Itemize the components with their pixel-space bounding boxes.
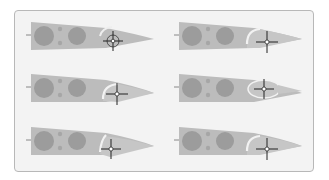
- wing-panel-middle-left: [26, 72, 176, 126]
- wing-panel-middle-right: [174, 72, 324, 126]
- hole-large-1: [34, 26, 54, 46]
- wing-section-diagram: [26, 124, 176, 178]
- wing-panel-top-left: [26, 18, 176, 72]
- wing-section-diagram: [26, 18, 176, 72]
- wing-section-diagram: [174, 18, 324, 72]
- wing-panel-bottom-right: [174, 124, 324, 178]
- wing-section-diagram: [26, 72, 176, 126]
- wing-panel-top-right: [174, 18, 324, 72]
- wing-section-diagram: [174, 124, 324, 178]
- wing-panel-bottom-left: [26, 124, 176, 178]
- hole-large-2: [68, 27, 86, 45]
- wing-section-diagram: [174, 72, 324, 126]
